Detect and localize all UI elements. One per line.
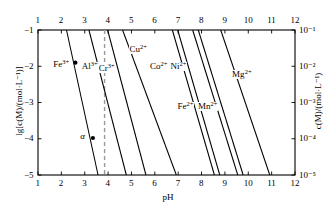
x-axis-title: pH (0, 192, 336, 202)
curve-label-Co2+: Co2+ (150, 62, 168, 71)
x-tick-label-bottom: 10 (244, 179, 253, 188)
x-tick-label-bottom: 12 (291, 179, 300, 188)
x-tick-label-top: 3 (82, 16, 87, 25)
x-tick-label-bottom: 4 (106, 179, 111, 188)
y-axis-left-title-text: lg[c(M)/(mol·L⁻¹)] (14, 66, 24, 135)
x-tick-label-top: 9 (222, 16, 227, 25)
curve-label-Fe3+: Fe3+ (53, 60, 70, 69)
y-tick-label-right: 10⁻¹ (299, 26, 315, 35)
x-tick-label-top: 11 (267, 16, 276, 25)
curve-label-Ni2+: Ni2+ (170, 62, 187, 71)
x-tick-label-top: 10 (244, 16, 253, 25)
x-tick-label-top: 1 (36, 16, 41, 25)
x-tick-label-top: 12 (291, 16, 300, 25)
y-tick-label-left: −1 (24, 26, 34, 35)
x-tick-label-bottom: 6 (152, 179, 157, 188)
x-tick-label-bottom: 2 (59, 179, 64, 188)
x-tick-label-top: 8 (199, 16, 204, 25)
x-tick-label-bottom: 5 (129, 179, 134, 188)
y-tick-label-left: −2 (24, 62, 34, 71)
plot-canvas (0, 0, 336, 214)
x-tick-label-top: 7 (176, 16, 181, 25)
x-tick-label-bottom: 1 (36, 179, 41, 188)
data-point-markers (73, 61, 95, 141)
y-tick-label-left: −3 (24, 98, 34, 107)
x-tick-label-bottom: 9 (222, 179, 227, 188)
plot-frame (38, 30, 295, 175)
marker-point-0 (73, 61, 77, 65)
curve-label-Fe2+: Fe2+ (177, 102, 194, 111)
y-tick-label-right: 10⁻⁴ (299, 134, 316, 143)
y-tick-label-right: 10⁻³ (299, 98, 315, 107)
axis-ticks (38, 30, 295, 175)
marker-label-alpha: α (80, 132, 86, 141)
y-axis-left-title: lg[c(M)/(mol·L⁻¹)] (14, 36, 24, 166)
x-tick-label-bottom: 8 (199, 179, 204, 188)
x-tick-label-bottom: 3 (82, 179, 87, 188)
y-tick-label-left: −4 (24, 134, 34, 143)
curve-label-Mn2+: Mn2+ (198, 102, 218, 111)
x-tick-label-bottom: 11 (267, 179, 276, 188)
curve-Fe3+ (67, 30, 99, 175)
x-tick-label-top: 5 (129, 16, 134, 25)
x-tick-label-bottom: 7 (176, 179, 181, 188)
y-tick-label-right: 10⁻⁵ (299, 171, 316, 180)
plot-border (38, 30, 295, 175)
y-tick-label-right: 10⁻² (299, 62, 315, 71)
curve-lines (67, 30, 270, 175)
chart-figure: pH lg[c(M)/(mol·L⁻¹)] c(M)/(mol·L⁻¹) 123… (0, 0, 336, 214)
curve-label-Al3+: Al3+ (81, 62, 98, 71)
curve-Mg2+ (221, 30, 270, 175)
curve-Al3+ (89, 30, 126, 175)
curve-label-Mg2+: Mg2+ (232, 70, 252, 79)
x-tick-label-top: 4 (106, 16, 111, 25)
x-tick-label-top: 6 (152, 16, 157, 25)
curve-label-Cr3+: Cr3+ (98, 64, 115, 73)
curve-label-Cu2+: Cu2+ (129, 45, 147, 54)
y-tick-label-left: −5 (24, 171, 34, 180)
marker-point-1 (91, 136, 95, 140)
x-tick-label-top: 2 (59, 16, 64, 25)
